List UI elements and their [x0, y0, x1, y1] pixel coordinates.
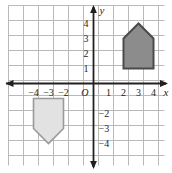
y-tick-label: 1	[84, 63, 89, 74]
x-tick-label: 1	[106, 87, 111, 98]
x-axis-arrow-left	[6, 80, 14, 87]
y-tick-label: −2	[99, 108, 110, 119]
x-tick-label: 3	[136, 87, 141, 98]
y-axis-label: y	[99, 4, 105, 16]
y-tick-label: 2	[84, 48, 89, 59]
coordinate-plane-svg: −4−3−212344321−2−3−4Oxy	[0, 0, 172, 173]
y-axis-arrow-up	[90, 5, 97, 13]
y-axis-arrow-down	[90, 161, 97, 169]
x-tick-label: −3	[43, 87, 54, 98]
origin-label: O	[81, 87, 88, 98]
y-tick-label: 3	[84, 33, 89, 44]
coordinate-plane-figure: −4−3−212344321−2−3−4Oxy	[0, 0, 172, 173]
x-tick-label: 2	[121, 87, 126, 98]
x-tick-label: −2	[58, 87, 69, 98]
y-tick-label: 4	[84, 18, 89, 29]
x-tick-label: 4	[151, 87, 156, 98]
x-tick-label: −4	[28, 87, 39, 98]
y-tick-label: −3	[99, 123, 110, 134]
x-axis-label: x	[163, 86, 169, 98]
y-tick-label: −4	[99, 138, 110, 149]
